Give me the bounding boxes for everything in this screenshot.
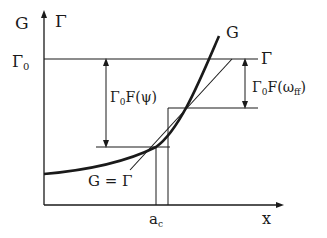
gamma0-label: Γ0: [12, 52, 29, 72]
right-gap-label: Γ0F(ωff): [252, 79, 306, 97]
diagram: G Γ Γ0 G Γ Γ0F(ψ) Γ0F(ωff) G = Γ ac x: [0, 0, 327, 238]
g-curve: [44, 36, 219, 174]
curve-g-label: G: [226, 23, 239, 42]
y-label-g: G: [15, 13, 29, 33]
line-gamma-label: Γ: [261, 49, 272, 68]
y-label-gamma: Γ: [55, 11, 67, 31]
diagram-canvas: G Γ Γ0 G Γ Γ0F(ψ) Γ0F(ωff) G = Γ ac x: [0, 0, 327, 238]
left-gap-label: Γ0F(ψ): [110, 89, 157, 107]
x-axis-label: x: [262, 209, 271, 228]
ac-tick-label: ac: [149, 210, 163, 229]
equality-label: G = Γ: [88, 172, 133, 190]
